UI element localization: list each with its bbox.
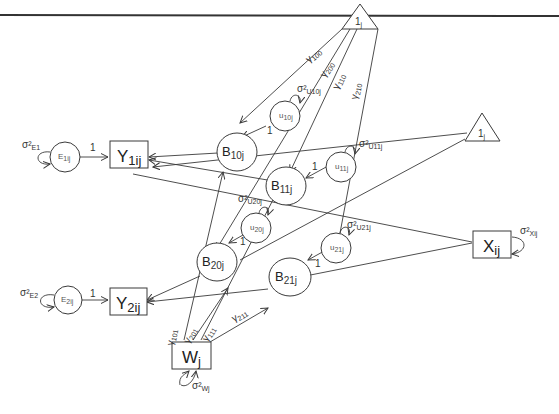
node-e2: E2ij <box>54 286 82 314</box>
node-u21: u21j <box>321 233 351 263</box>
node-u11: u11j <box>326 152 356 182</box>
node-e1: E1ij <box>50 142 80 172</box>
paths-from-right-constant <box>153 133 467 260</box>
path-diagram: 1j 1j Y1ij Y2ij Xij Wj B10j B11j B20j B2… <box>0 0 559 414</box>
gamma-labels: γ100 γ200 γ110 γ210 γ101 γ201 γ111 γ211 <box>164 45 363 346</box>
svg-text:γ210: γ210 <box>348 82 363 101</box>
svg-text:σ²Xij: σ²Xij <box>520 225 538 238</box>
svg-text:1: 1 <box>315 258 321 269</box>
variance-loops <box>38 95 524 386</box>
top-rule <box>0 15 559 16</box>
node-y2: Y2ij <box>110 288 147 315</box>
svg-text:γ200: γ200 <box>317 59 336 80</box>
svg-text:γ211: γ211 <box>230 306 250 325</box>
svg-text:1: 1 <box>90 288 96 299</box>
node-x: Xij <box>473 231 511 258</box>
node-b21: B21j <box>269 258 311 296</box>
svg-text:σ²E2: σ²E2 <box>20 287 38 299</box>
svg-text:σ²Wj: σ²Wj <box>192 380 210 393</box>
svg-text:σ²U20j: σ²U20j <box>238 193 262 206</box>
node-b10: B10j <box>217 133 257 171</box>
node-y1: Y1ij <box>110 141 148 168</box>
svg-text:1: 1 <box>312 161 318 172</box>
svg-text:σ²U11j: σ²U11j <box>359 138 383 151</box>
svg-text:1: 1 <box>240 236 246 247</box>
svg-text:σ²E1: σ²E1 <box>22 139 40 151</box>
svg-text:1: 1 <box>267 125 273 136</box>
constant-right: 1j <box>465 113 500 141</box>
node-b11: B11j <box>266 167 306 205</box>
node-b20: B20j <box>197 243 237 281</box>
svg-text:σ²U10j: σ²U10j <box>297 83 321 96</box>
node-u10: u10j <box>270 101 300 131</box>
node-w: Wj <box>172 342 211 369</box>
svg-text:1: 1 <box>90 142 96 153</box>
